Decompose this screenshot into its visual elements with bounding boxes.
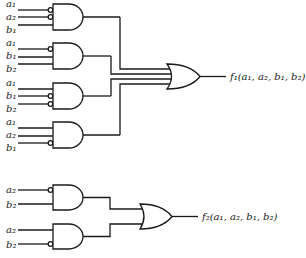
label-b1: b₁ bbox=[6, 50, 16, 61]
label-b2: b₂ bbox=[6, 239, 16, 250]
label-b2: b₂ bbox=[6, 199, 16, 210]
label-a1: a₁ bbox=[6, 77, 16, 88]
label-a1: a₁ bbox=[6, 37, 16, 48]
label-b1: b₁ bbox=[6, 142, 16, 153]
label-b1: b₁ bbox=[6, 90, 16, 101]
label-b2: b₂ bbox=[6, 63, 16, 74]
label-a2: a₂ bbox=[6, 11, 16, 22]
label-a2: a₂ bbox=[6, 184, 16, 195]
and-gate-1 bbox=[18, 4, 120, 30]
or-gate-1 bbox=[167, 64, 226, 89]
label-a2: a₂ bbox=[6, 224, 16, 235]
output-f2-label: f₂(a₁, a₂, b₁, b₂) bbox=[201, 211, 277, 222]
label-a1: a₁ bbox=[6, 0, 16, 9]
or-gate-2 bbox=[140, 204, 198, 229]
label-b1: b₁ bbox=[6, 24, 16, 35]
and-gate-4 bbox=[18, 122, 120, 148]
inversion-bubble-icon bbox=[48, 102, 53, 107]
inversion-bubble-icon bbox=[48, 47, 53, 52]
label-b2: b₂ bbox=[6, 103, 16, 114]
inversion-bubble-icon bbox=[48, 141, 53, 146]
label-a1: a₁ bbox=[6, 116, 16, 127]
and-gate-6 bbox=[18, 224, 143, 249]
or1-wiring bbox=[111, 17, 172, 135]
and-gate-5 bbox=[18, 185, 143, 210]
circuit2-input-labels: a₂ b₂ a₂ b₂ bbox=[6, 184, 16, 250]
inversion-bubble-icon bbox=[48, 188, 53, 193]
label-a2: a₂ bbox=[6, 129, 16, 140]
inversion-bubble-icon bbox=[48, 8, 53, 13]
inversion-bubble-icon bbox=[48, 94, 53, 99]
and-gate-2 bbox=[18, 43, 111, 69]
and-gate-3 bbox=[18, 83, 111, 109]
inversion-bubble-icon bbox=[48, 242, 53, 247]
output-f1-label: f₁(a₁, a₂, b₁, b₂) bbox=[229, 71, 305, 82]
circuit1-input-labels: a₁ a₂ b₁ a₁ b₁ b₂ a₁ b₁ b₂ a₁ a₂ b₁ bbox=[6, 0, 16, 153]
logic-circuit-diagram: a₁ a₂ b₁ a₁ b₁ b₂ a₁ b₁ b₂ a₁ a₂ b₁ f₁(a… bbox=[0, 0, 306, 258]
inversion-bubble-icon bbox=[48, 15, 53, 20]
